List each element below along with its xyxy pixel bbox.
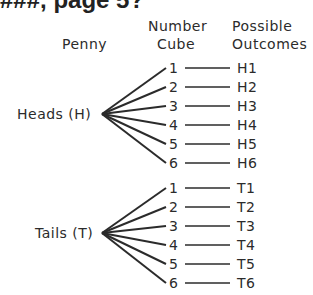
outcome-value: H1 <box>237 60 257 76</box>
cube-value: 6 <box>169 275 178 291</box>
cube-value: 5 <box>169 136 178 152</box>
outcome-value: H3 <box>237 98 257 114</box>
outcome-value: H2 <box>237 79 257 95</box>
outcome-connectors <box>185 68 230 283</box>
cube-value: 1 <box>169 180 178 196</box>
outcome-value: T6 <box>237 275 255 291</box>
outcome-value: T3 <box>237 218 255 234</box>
cube-value: 4 <box>169 237 178 253</box>
tails-label: Tails (T) <box>35 225 93 241</box>
outcome-value: T5 <box>237 256 255 272</box>
outcome-value: T1 <box>237 180 255 196</box>
outcome-value: T2 <box>237 199 255 215</box>
cube-value: 5 <box>169 256 178 272</box>
cube-value: 3 <box>169 98 178 114</box>
cube-value: 2 <box>169 199 178 215</box>
outcome-value: H5 <box>237 136 257 152</box>
tails-branches <box>102 188 166 283</box>
tree-diagram-lines <box>0 0 313 295</box>
cube-value: 1 <box>169 60 178 76</box>
outcome-value: T4 <box>237 237 255 253</box>
cube-value: 6 <box>169 155 178 171</box>
outcome-value: H6 <box>237 155 257 171</box>
outcome-value: H4 <box>237 117 257 133</box>
cube-value: 3 <box>169 218 178 234</box>
heads-label: Heads (H) <box>17 106 91 122</box>
cube-value: 2 <box>169 79 178 95</box>
cube-value: 4 <box>169 117 178 133</box>
heads-branches <box>102 68 166 163</box>
